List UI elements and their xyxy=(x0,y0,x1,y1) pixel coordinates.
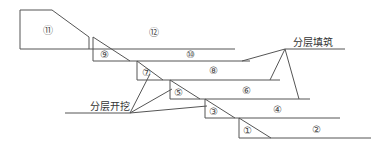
block-11-label: ⑪ xyxy=(43,26,53,36)
block-6-label: ⑥ xyxy=(242,86,251,96)
annotation-layered-excavation: 分层开挖 xyxy=(90,102,130,112)
block-8-label: ⑧ xyxy=(209,66,218,76)
block-7-label: ⑦ xyxy=(142,68,151,78)
block-12-label: ⑫ xyxy=(149,28,159,38)
block-4-label: ④ xyxy=(273,105,282,115)
block-11-outline xyxy=(20,10,89,49)
block-5-label: ⑤ xyxy=(174,88,183,98)
block-3-label: ③ xyxy=(209,107,218,117)
annotation-layered-fill: 分层填筑 xyxy=(293,38,333,48)
block-10-label: ⑩ xyxy=(186,50,195,60)
diagram-lines xyxy=(0,0,388,152)
layered-excavation-fill-diagram: ⑪ ⑫ ⑨ ⑩ ⑦ ⑧ ⑤ ⑥ ③ ④ ① ② 分层填筑 分层开挖 xyxy=(0,0,388,152)
block-1-label: ① xyxy=(243,126,252,136)
block-2-label: ② xyxy=(312,125,321,135)
block-9-label: ⑨ xyxy=(100,50,109,60)
